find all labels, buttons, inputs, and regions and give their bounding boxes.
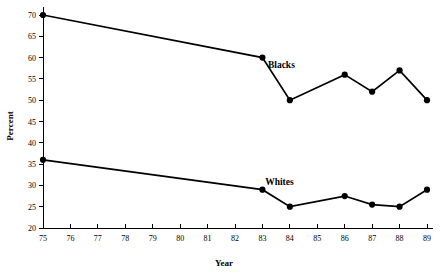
x-tick-label: 77 (94, 234, 102, 243)
x-tick-label: 76 (66, 234, 74, 243)
y-axis-tick-labels: 2025303540455055606570 (28, 11, 36, 233)
y-tick-label: 45 (28, 118, 36, 127)
y-tick-label: 70 (28, 11, 36, 20)
data-point-marker-blacks-89 (424, 97, 430, 103)
series-line-whites (43, 160, 427, 207)
x-tick-label: 80 (176, 234, 184, 243)
y-tick-label: 60 (28, 54, 36, 63)
y-tick-label: 30 (28, 181, 36, 190)
x-tick-label: 84 (286, 234, 294, 243)
data-point-marker-whites-84 (287, 204, 293, 210)
data-point-marker-blacks-75 (40, 12, 46, 18)
y-tick-label: 50 (28, 96, 36, 105)
x-tick-label: 75 (39, 234, 47, 243)
data-point-marker-blacks-84 (287, 97, 293, 103)
data-point-marker-whites-83 (259, 187, 265, 193)
data-series-group (40, 12, 430, 210)
data-point-marker-blacks-86 (342, 72, 348, 78)
x-tick-label: 78 (121, 234, 129, 243)
data-point-marker-blacks-83 (259, 55, 265, 61)
series-label-blacks: Blacks (268, 60, 295, 70)
y-axis-ticks (39, 15, 43, 228)
line-chart-plot: 2025303540455055606570 75767778798081828… (0, 0, 444, 277)
y-tick-label: 40 (28, 139, 36, 148)
data-point-marker-blacks-88 (396, 67, 402, 73)
x-tick-label: 85 (313, 234, 321, 243)
y-axis-title: Percent (5, 111, 15, 140)
x-tick-label: 86 (341, 234, 349, 243)
data-point-marker-whites-88 (396, 204, 402, 210)
series-label-whites: Whites (265, 177, 294, 187)
x-tick-label: 89 (423, 234, 431, 243)
x-tick-label: 82 (231, 234, 239, 243)
x-tick-label: 83 (258, 234, 266, 243)
chart-container: 2025303540455055606570 75767778798081828… (0, 0, 444, 277)
y-tick-label: 35 (28, 160, 36, 169)
series-line-blacks (43, 15, 427, 100)
y-tick-label: 25 (28, 203, 36, 212)
data-point-marker-whites-87 (369, 201, 375, 207)
x-axis-title: Year (215, 258, 233, 268)
y-tick-label: 20 (28, 224, 36, 233)
data-point-marker-whites-75 (40, 157, 46, 163)
x-tick-label: 88 (396, 234, 404, 243)
x-axis-ticks (43, 224, 427, 228)
y-tick-label: 65 (28, 32, 36, 41)
x-tick-label: 81 (204, 234, 212, 243)
data-point-marker-blacks-87 (369, 89, 375, 95)
series-annotation-labels: BlacksWhites (265, 60, 295, 186)
data-point-marker-whites-89 (424, 187, 430, 193)
y-tick-label: 55 (28, 75, 36, 84)
x-tick-label: 87 (368, 234, 376, 243)
x-axis-tick-labels: 757677787980818283848586878889 (39, 234, 431, 243)
x-tick-label: 79 (149, 234, 157, 243)
data-point-marker-whites-86 (342, 193, 348, 199)
